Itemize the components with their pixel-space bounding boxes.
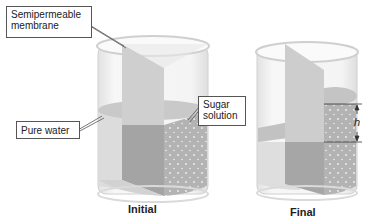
sugar-label-line1: Sugar <box>203 99 241 110</box>
sugar-solution-label: Sugar solution <box>198 96 246 126</box>
membrane-label-line2: membrane <box>11 20 87 31</box>
pure-water-label: Pure water <box>16 121 80 139</box>
membrane-label: Semipermeable membrane <box>6 6 92 38</box>
height-label: h <box>354 116 360 128</box>
beaker-final <box>256 42 362 200</box>
sugar-label-line2: solution <box>203 110 241 121</box>
caption-final: Final <box>290 206 316 218</box>
membrane-label-line1: Semipermeable <box>11 9 87 20</box>
caption-initial: Initial <box>128 203 157 215</box>
pure-water-text: Pure water <box>21 125 69 136</box>
